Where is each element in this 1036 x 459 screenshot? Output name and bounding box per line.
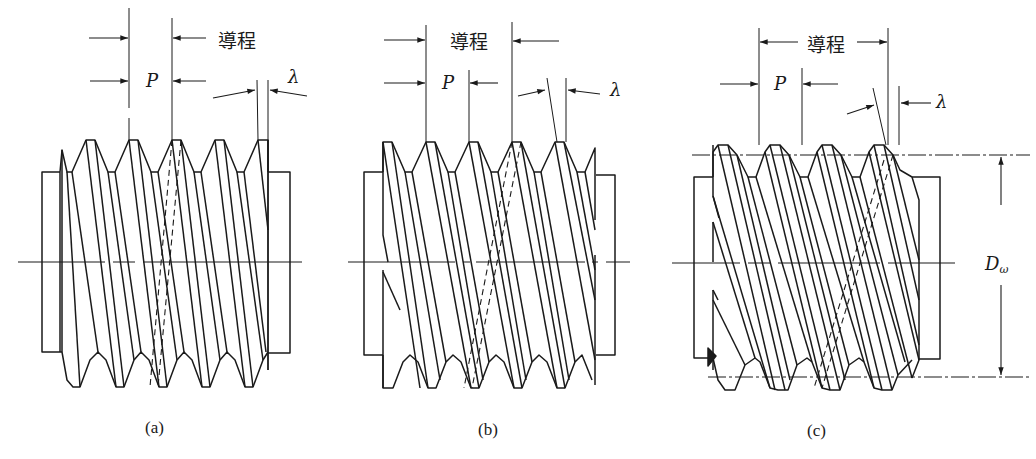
panel-c-worm	[672, 28, 1030, 390]
diameter-symbol: D	[985, 253, 999, 274]
panel-c-diameter-label: Dω	[985, 253, 1008, 276]
panel-a-lead-angle-label: λ	[288, 66, 299, 87]
panel-a-worm	[18, 8, 307, 387]
panel-a-lead-label: 導程	[218, 26, 256, 53]
panel-a-pitch-label: P	[146, 70, 158, 91]
diameter-subscript: ω	[999, 263, 1008, 276]
panel-a-caption: (a)	[145, 418, 164, 438]
panel-c-lead-angle-label: λ	[936, 91, 947, 112]
panel-b-worm	[348, 22, 630, 388]
panel-b-pitch-label: P	[442, 72, 454, 93]
panel-c-caption: (c)	[807, 421, 826, 441]
worm-thread-diagram	[0, 0, 1036, 459]
panel-b-lead-label: 導程	[450, 27, 488, 54]
panel-b-caption: (b)	[478, 420, 498, 440]
panel-c-pitch-label: P	[774, 73, 786, 94]
panel-c-lead-label: 導程	[807, 30, 845, 57]
panel-b-lead-angle-label: λ	[610, 79, 621, 100]
